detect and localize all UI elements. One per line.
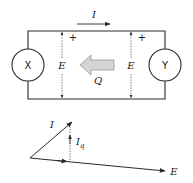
phasor-diagram: I Iq E	[30, 119, 178, 177]
q-label: Q	[94, 75, 102, 86]
current-label: I	[91, 9, 97, 20]
source-y: Y	[149, 49, 181, 81]
current-arrow: I	[77, 9, 110, 24]
reactive-power: Q	[80, 55, 114, 86]
e-phasor-arrow-icon	[30, 158, 165, 171]
right-voltage-label: E	[126, 60, 135, 71]
source-x-label: X	[25, 60, 32, 71]
source-y-label: Y	[161, 60, 169, 71]
right-polarity-plus: +	[138, 32, 146, 43]
id-arrow-icon	[56, 161, 67, 162]
left-voltage: E +	[57, 32, 77, 98]
phasor-e-label: E	[169, 166, 178, 177]
phasor-iq-label: Iq	[75, 136, 85, 150]
phasor-i-label: I	[49, 119, 55, 130]
q-arrow-icon	[80, 55, 114, 75]
diagram-canvas: X Y I E + E + Q	[0, 0, 193, 183]
phasor-iq-subscript: q	[80, 142, 85, 150]
circuit: X Y I E + E + Q	[12, 9, 181, 99]
left-polarity-plus: +	[69, 32, 77, 43]
left-voltage-label: E	[57, 60, 66, 71]
right-voltage: E +	[126, 32, 146, 98]
source-x: X	[12, 49, 44, 81]
